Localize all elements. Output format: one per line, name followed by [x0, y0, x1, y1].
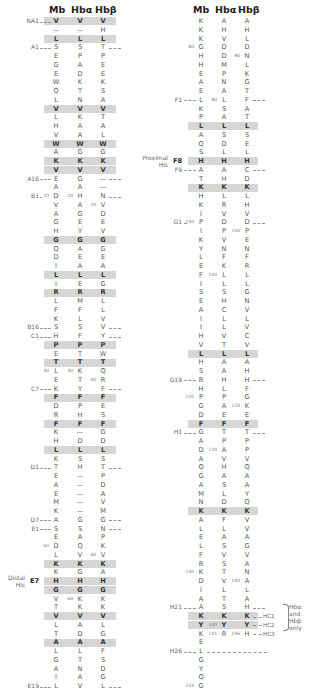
alignment-row: DA120P	[156, 446, 312, 455]
residue-ha: V	[73, 17, 87, 26]
residue-hb: V	[240, 516, 254, 525]
alignment-row: KYFC7	[0, 385, 156, 394]
residue-hb: G	[96, 148, 110, 157]
residue-mb: S	[49, 525, 63, 534]
residue-hb: Y	[240, 621, 254, 630]
residue-hb: V	[240, 455, 254, 464]
alignment-row: P120PG	[156, 393, 312, 402]
boundary-dash	[109, 48, 121, 49]
residue-mb: E	[194, 70, 208, 79]
helix-position-label: A1	[31, 43, 39, 52]
alignment-row: KR141H146HC3	[156, 630, 312, 639]
residue-mb: T	[49, 603, 63, 612]
residue-ha: A	[217, 358, 231, 367]
residue-ha: H	[217, 175, 231, 184]
residue-hb: P	[240, 227, 254, 236]
residue-hb: V	[96, 105, 110, 114]
alignment-row: WKK	[0, 78, 156, 87]
residue-ha: H	[73, 411, 87, 420]
boundary-dash	[109, 520, 121, 521]
residue-ha: T	[73, 656, 87, 665]
residue-mb: Q	[194, 140, 208, 149]
residue-ha: V	[217, 455, 231, 464]
residue-hb: P	[240, 437, 254, 446]
residue-ha: Y	[217, 621, 231, 630]
alignment-row: LVLE19	[0, 682, 156, 691]
alignment-row: KHH	[156, 26, 312, 35]
residue-hb: L	[96, 297, 110, 306]
residue-ha: K	[73, 595, 87, 604]
alignment-row: EG—A16	[0, 175, 156, 184]
alignment-row: K140TN	[156, 568, 312, 577]
residue-ha: S	[217, 542, 231, 551]
residue-mb: K	[194, 105, 208, 114]
alignment-row: Q	[156, 673, 312, 682]
alignment-row: IEG	[0, 280, 156, 289]
alignment-row: KVL	[156, 35, 312, 44]
residue-hb: A	[96, 262, 110, 271]
residue-mb: I	[194, 210, 208, 219]
alignment-row: ILL	[156, 315, 312, 324]
boundary-dash	[40, 22, 51, 23]
residue-hb: L	[240, 192, 254, 201]
alignment-row: G153	[156, 682, 312, 691]
residue-ha: S	[217, 288, 231, 297]
alignment-row: LKT	[0, 113, 156, 122]
residue-hb: V	[240, 323, 254, 332]
residue-mb: D	[194, 577, 208, 586]
residue-ha: L	[217, 350, 231, 359]
residue-ha: S	[73, 525, 87, 534]
boundary-dash	[253, 433, 265, 434]
residue-hb: V	[96, 323, 110, 332]
alignment-row: VVV	[0, 612, 156, 621]
alignment-row: ACV	[156, 306, 312, 315]
header-hb-beta: Hbβ	[238, 4, 260, 15]
header-hb-alpha: Hbα	[71, 4, 92, 15]
alignment-row: LLL	[0, 446, 156, 455]
alignment-row: PPP	[0, 341, 156, 350]
residue-hb: G	[240, 393, 254, 402]
alignment-row: E—P	[0, 472, 156, 481]
residue-hb: G	[240, 78, 254, 87]
residue-mb: A	[49, 665, 63, 674]
residue-hb: F	[240, 96, 254, 105]
residue-number: 60	[61, 595, 73, 604]
residue-mb: E	[49, 472, 63, 481]
residue-ha: F	[217, 420, 231, 429]
residue-hb: F	[240, 420, 254, 429]
residue-mb: K	[49, 157, 63, 166]
alignment-row: RHHG19	[156, 376, 312, 385]
residue-ha: N	[73, 665, 87, 674]
residue-number: 146	[228, 630, 240, 639]
residue-mb: S	[49, 323, 63, 332]
residue-ha: T	[73, 350, 87, 359]
residue-mb: —	[49, 26, 63, 35]
residue-number: 80	[205, 96, 217, 105]
residue-hb: A	[240, 105, 254, 114]
residue-hb: F	[96, 420, 110, 429]
residue-mb: E	[194, 262, 208, 271]
alignment-row: EKR	[156, 262, 312, 271]
alignment-row: YNN	[156, 245, 312, 254]
alignment-row: HML	[156, 61, 312, 70]
residue-ha: A	[73, 131, 87, 140]
residue-mb: A	[194, 455, 208, 464]
residue-mb: K	[194, 183, 208, 192]
residue-mb: G	[49, 656, 63, 665]
residue-ha: D	[217, 498, 231, 507]
residue-hb: K	[96, 157, 110, 166]
residue-ha: —	[73, 26, 87, 35]
residue-mb: V	[49, 131, 63, 140]
residue-mb: I	[194, 280, 208, 289]
residue-ha: —	[73, 428, 87, 437]
residue-hb: V	[240, 525, 254, 534]
residue-ha: T	[217, 341, 231, 350]
alignment-row: LLV	[156, 525, 312, 534]
residue-mb: N	[194, 498, 208, 507]
alignment-row: SSVB16	[0, 323, 156, 332]
residue-ha: H	[217, 376, 231, 385]
residue-hb: V	[96, 498, 110, 507]
alignment-row: EPK	[156, 70, 312, 79]
residue-hb: K	[240, 402, 254, 411]
residue-mb: H	[49, 227, 63, 236]
